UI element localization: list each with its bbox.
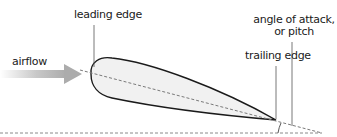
trailing-edge-label: trailing edge (245, 50, 311, 62)
airflow-label: airflow (12, 56, 47, 68)
leading-edge-label: leading edge (74, 9, 142, 21)
angle-arc (278, 123, 281, 133)
chord-line (80, 70, 322, 133)
airfoil-diagram: leading edge airflow trailing edge angle… (0, 0, 337, 137)
angle-of-attack-label-line2: or pitch (250, 26, 337, 38)
airfoil-shape (91, 58, 276, 120)
angle-of-attack-label: angle of attack, or pitch (250, 14, 337, 38)
